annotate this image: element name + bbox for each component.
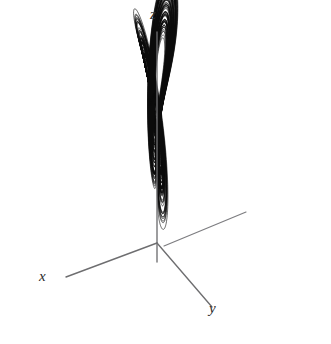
right-lobe-core bbox=[194, 142, 224, 165]
axes-group bbox=[66, 32, 212, 307]
z-axis-label: z bbox=[150, 7, 156, 22]
y-axis-line bbox=[157, 243, 212, 307]
attractor-plot bbox=[0, 0, 331, 344]
x-axis-line bbox=[66, 243, 157, 277]
trajectory-tail-segment bbox=[164, 212, 246, 246]
attractor-trajectory bbox=[134, 0, 178, 229]
left-lobe-core bbox=[96, 120, 111, 136]
lorenz-attractor-figure: z x y bbox=[0, 0, 331, 344]
y-axis-label: y bbox=[209, 301, 216, 316]
x-axis-label: x bbox=[39, 269, 46, 284]
